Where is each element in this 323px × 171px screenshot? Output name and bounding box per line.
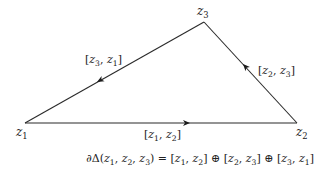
vertex-label-z2: z2: [296, 126, 308, 140]
boundary-operator: ∂Δ: [86, 152, 100, 165]
direct-sum-symbol: ⊕: [211, 152, 220, 165]
vertex-z1-sub: 1: [22, 131, 27, 141]
equals-sign: =: [158, 152, 167, 165]
bracket-close: ]: [291, 64, 295, 77]
direct-sum-symbol: ⊕: [264, 152, 273, 165]
vertex-z3-sub: 3: [203, 10, 208, 20]
comma: ,: [100, 53, 107, 66]
edge-label-z3-z1: [z3, z1]: [85, 54, 122, 67]
arrow-down-left-icon: [96, 76, 105, 85]
edge-z3-z1: [25, 22, 204, 123]
edge-label-z2-z3: [z2, z3]: [258, 65, 295, 78]
bracket-close: ]: [177, 128, 181, 141]
comma: ,: [273, 64, 280, 77]
vertex-label-z3: z3: [197, 5, 209, 19]
edge-label-z1-z2: [z1, z2]: [144, 129, 181, 142]
triangle-diagram: [0, 0, 323, 171]
vertex-label-z1: z1: [16, 126, 28, 140]
boundary-formula: ∂Δ(z1, z2, z3) = [z1, z2] ⊕ [z2, z3] ⊕ […: [86, 153, 314, 166]
bracket-close: ]: [118, 53, 122, 66]
comma: ,: [159, 128, 166, 141]
vertex-z2-sub: 2: [302, 131, 307, 141]
